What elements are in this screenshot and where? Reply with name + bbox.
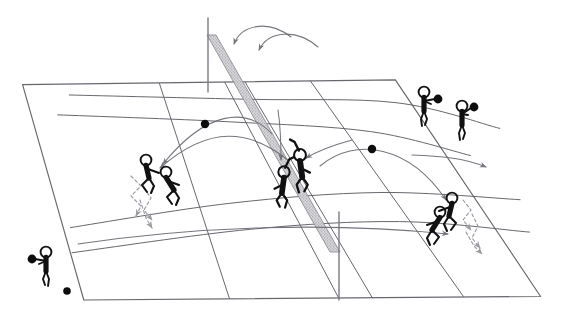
move-dashed-left-zigzag-a: [131, 176, 141, 216]
ball-right-arc: [368, 145, 376, 153]
player-right-back-a-body: [439, 193, 457, 231]
player-outside-right-ball-holder-arm-other: [462, 114, 468, 115]
player-outside-right-ball-holder-leg-back: [462, 125, 465, 139]
player-left-back-a-leg-front: [149, 178, 154, 193]
move-dashed-right-down: [466, 232, 482, 254]
player-net-blocker-leg-back: [277, 193, 282, 207]
player-left-back-b[interactable]: [161, 167, 179, 205]
player-outside-right-ball-holder-leg-front: [459, 125, 462, 140]
player-right-back-a[interactable]: [439, 193, 457, 231]
player-right-back-a-leg-front: [444, 216, 449, 231]
player-left-back-a-leg-back: [142, 178, 149, 192]
player-server-left-baseline[interactable]: [28, 247, 52, 286]
player-left-back-a-torso: [146, 165, 149, 178]
centre-cross-line-b: [245, 82, 372, 298]
ball-left-arc: [201, 120, 209, 128]
player-far-right-corner-held-ball: [434, 95, 443, 104]
player-right-back-a-leg-back: [449, 216, 456, 230]
net-group: [207, 18, 340, 300]
player-outside-right-ball-holder-held-ball: [470, 103, 479, 112]
net-band: [207, 35, 340, 252]
trajectory-over-net-inner: [234, 26, 291, 44]
move-dashed-right-zigzag-b: [472, 214, 480, 248]
player-right-back-b-leg-back: [432, 230, 439, 244]
player-server-left-baseline-leg-back: [43, 271, 46, 285]
player-left-back-a-body: [141, 155, 159, 193]
player-server-left-baseline-held-ball: [28, 255, 37, 264]
trajectory-to-net-from-right: [306, 140, 352, 158]
player-server-left-baseline-body: [28, 247, 52, 286]
diagram-svg: [0, 0, 562, 310]
trajectory-right-into-corner: [412, 155, 486, 167]
trajectory-over-net-outer: [259, 34, 318, 50]
player-left-back-b-leg-back: [167, 190, 174, 204]
volleyball-diagram-canvas: [0, 0, 562, 310]
ball-floor-corner: [63, 287, 71, 295]
player-far-right-corner-leg-front: [421, 111, 424, 126]
trajectories-group: [78, 26, 486, 244]
player-outside-right-ball-holder-body: [457, 101, 479, 140]
player-net-blocker-leg-front: [282, 193, 287, 208]
trajectory-right-flat: [78, 227, 448, 244]
player-outside-right-ball-holder[interactable]: [457, 101, 479, 140]
player-right-back-b-body: [427, 207, 445, 245]
player-left-back-b-body: [161, 167, 179, 205]
player-right-back-b[interactable]: [427, 207, 445, 245]
attack-line-right: [310, 81, 463, 296]
player-server-left-baseline-leg-front: [46, 271, 49, 286]
sideline-far-left-third: [159, 83, 229, 298]
player-left-back-a[interactable]: [141, 155, 159, 193]
player-net-attacker-arm-raised: [290, 140, 299, 151]
player-left-back-b-leg-front: [174, 190, 179, 205]
move-dashed-left-down: [140, 200, 152, 228]
player-right-back-a-torso: [449, 203, 452, 216]
